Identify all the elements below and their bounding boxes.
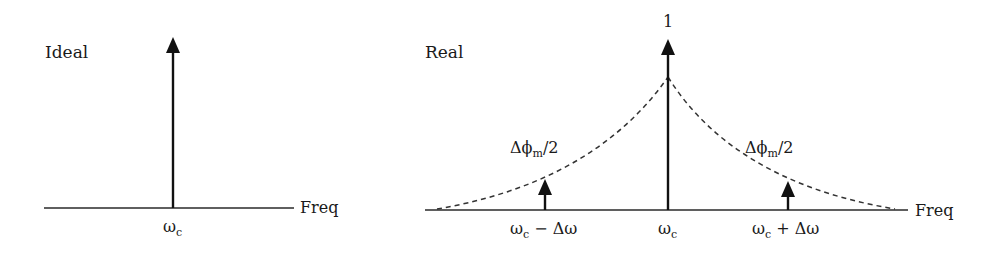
upper-sideband-arrow xyxy=(781,181,795,210)
real-title: Real xyxy=(425,42,463,62)
peak-amplitude-label: 1 xyxy=(663,12,673,31)
ideal-carrier-arrow xyxy=(166,37,180,208)
real-carrier-label: ωc xyxy=(658,219,677,241)
arrow-head-icon xyxy=(661,39,675,55)
real-axis-label: Freq xyxy=(915,201,953,220)
lower-sideband-freq-label: ωc − Δω xyxy=(510,219,577,241)
lower-sideband-amplitude-label: Δϕm/2 xyxy=(510,138,558,160)
ideal-title: Ideal xyxy=(45,42,88,62)
arrow-head-icon xyxy=(166,37,180,53)
upper-sideband-amplitude-label: Δϕm/2 xyxy=(745,138,793,160)
spectrum-diagram: Ideal Freq ωc Real 1 Freq ωc Δϕm/2 ωc − … xyxy=(0,0,996,256)
ideal-axis-label: Freq xyxy=(300,198,338,217)
ideal-panel: Ideal Freq ωc xyxy=(44,37,338,239)
lower-sideband-arrow xyxy=(538,179,552,210)
ideal-carrier-label: ωc xyxy=(163,217,182,239)
real-carrier-arrow xyxy=(661,39,675,210)
arrow-head-icon xyxy=(781,181,795,197)
upper-sideband-freq-label: ωc + Δω xyxy=(752,219,819,241)
arrow-head-icon xyxy=(538,179,552,195)
real-panel: Real 1 Freq ωc Δϕm/2 ωc − Δω Δϕm/2 ωc + … xyxy=(425,12,953,241)
